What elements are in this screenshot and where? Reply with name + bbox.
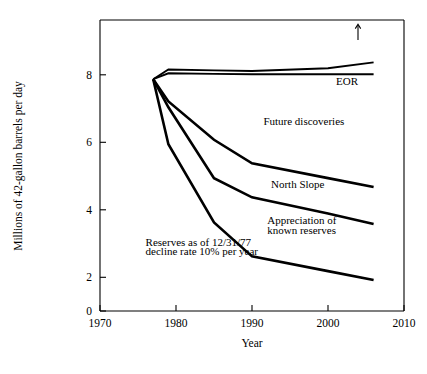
x-tick-label-1980: 1980 [165,317,188,329]
y-axis-title: Millions of 42-gallon barrels per day [12,81,25,251]
annotations-group: EOR Future discoveries North Slope Appre… [146,75,359,257]
annotation-future-discoveries: Future discoveries [263,115,344,127]
y-axis-tick-labels: 0 2 4 6 8 [86,69,92,317]
y-tick-label-2: 2 [86,271,92,283]
line-chart: 0 2 4 6 8 1970 1980 1990 2000 2010 Year … [0,0,427,374]
x-axis-tick-labels: 1970 1980 1990 2000 2010 [89,317,416,329]
x-tick-label-2010: 2010 [393,317,416,329]
y-axis-ticks [100,75,106,311]
annotation-reserves-line-2: decline rate 10% per year [146,245,259,257]
chart-container: 0 2 4 6 8 1970 1980 1990 2000 2010 Year … [0,0,427,374]
x-tick-label-2000: 2000 [317,317,340,329]
x-axis-ticks [100,305,404,311]
annotation-eor: EOR [336,75,359,87]
series-line-3 [153,79,373,224]
y-tick-label-4: 4 [86,204,92,216]
y-tick-label-8: 8 [86,69,92,81]
y-tick-label-6: 6 [86,136,92,148]
annotation-north-slope: North Slope [271,178,325,190]
y-tick-label-0: 0 [86,305,92,317]
x-tick-label-1990: 1990 [241,317,264,329]
annotation-appreciation-line-2: known reserves [267,224,336,236]
x-axis-title: Year [241,337,262,349]
x-tick-label-1970: 1970 [89,317,112,329]
eor-leader [355,24,360,40]
